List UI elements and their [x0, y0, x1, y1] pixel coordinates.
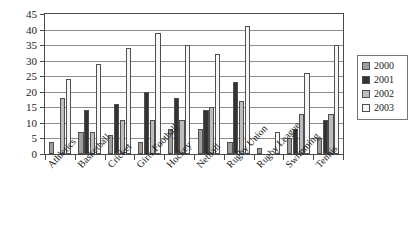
legend-label: 2001 — [374, 75, 394, 85]
legend-swatch — [362, 76, 370, 84]
legend-item: 2003 — [362, 101, 404, 115]
x-axis-category-label: Cricket — [106, 141, 133, 169]
x-axis-category-label: Athletics — [46, 137, 78, 170]
x-axis-category-label: Hockey — [165, 140, 194, 170]
legend-item: 2001 — [362, 73, 404, 87]
x-axis-category-label: Netball — [195, 141, 222, 169]
legend-swatch — [362, 104, 370, 112]
x-axis-category-label: Tennis — [314, 144, 339, 170]
legend-label: 2000 — [374, 61, 394, 71]
bar-chart: 051015202530354045 AthleticsBasketballCr… — [0, 0, 415, 232]
legend-item: 2002 — [362, 87, 404, 101]
legend-swatch — [362, 62, 370, 70]
legend: 2000200120022003 — [357, 55, 408, 120]
legend-label: 2002 — [374, 89, 394, 99]
legend-label: 2003 — [374, 103, 394, 113]
x-axis-labels: AthleticsBasketballCricketGirls Football… — [0, 0, 415, 232]
legend-item: 2000 — [362, 59, 404, 73]
legend-swatch — [362, 90, 370, 98]
